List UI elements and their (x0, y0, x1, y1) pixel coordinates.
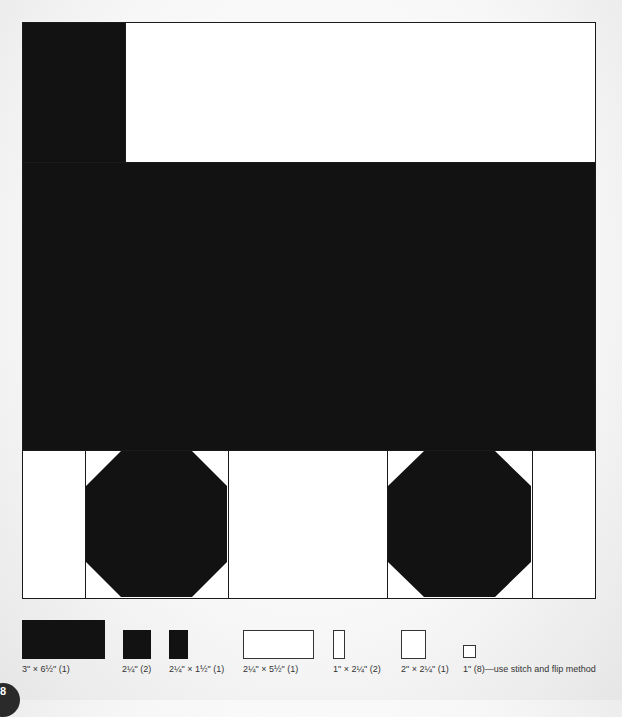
octagon-block-left (85, 450, 229, 599)
octagon-block-right (387, 450, 533, 599)
legend-label-1: 3" × 6½" (1) (22, 664, 70, 674)
legend-label-5: 1" × 2¼" (2) (333, 664, 381, 674)
legend-label-4: 2¼" × 5½" (1) (243, 664, 298, 674)
legend-label-3: 2¼" × 1½" (1) (169, 664, 224, 674)
top-left-dark-piece (22, 22, 126, 163)
octagon-left-icon (86, 451, 227, 597)
legend-label-7: 1" (8)—use stitch and flip method (463, 664, 596, 674)
octagon-right-icon (388, 451, 531, 597)
swatch-2-25-square (123, 630, 151, 659)
swatch-1-square (463, 645, 476, 658)
page-number-badge: 8 (0, 683, 20, 717)
swatch-2-25x5-5 (243, 630, 314, 659)
bottom-white-piece-center (228, 450, 388, 599)
bottom-white-piece-right (532, 450, 596, 599)
swatch-1x2-25 (333, 630, 345, 659)
large-dark-piece (22, 162, 596, 451)
top-white-piece (125, 22, 596, 163)
legend-label-6: 2" × 2¼" (1) (401, 664, 449, 674)
swatch-3x6-5 (22, 620, 105, 659)
legend-label-2: 2¼" (2) (122, 664, 151, 674)
swatch-2x2-25 (401, 630, 426, 659)
swatch-2-25x1-5 (169, 630, 188, 659)
page-number: 8 (0, 685, 6, 697)
bottom-white-piece-left (22, 450, 86, 599)
